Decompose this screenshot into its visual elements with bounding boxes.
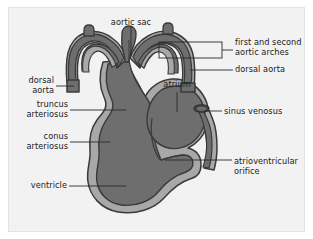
label-aortic-sac: aortic sac	[92, 18, 170, 28]
label-truncus-arteriosus-line2: arteriosus	[4, 110, 68, 120]
sinus-venosus-opening-inner	[197, 107, 206, 111]
label-dorsal-aorta-left-line2: aorta	[10, 86, 54, 96]
label-conus-arteriosus-line2: arteriosus	[4, 142, 68, 152]
atrium-lumen	[147, 86, 205, 149]
label-atrioventricular-orifice-line2: orifice	[234, 167, 260, 177]
diagram-page: aortic sac first and second aortic arche…	[0, 0, 313, 239]
label-ventricle: ventricle	[4, 181, 67, 191]
label-atrium: atrium	[152, 80, 202, 90]
label-first-and-second-aortic-arches-line2: aortic arches	[235, 48, 289, 58]
label-sinus-venosus: sinus venosus	[224, 107, 282, 117]
label-dorsal-aorta-right: dorsal aorta	[235, 65, 285, 75]
